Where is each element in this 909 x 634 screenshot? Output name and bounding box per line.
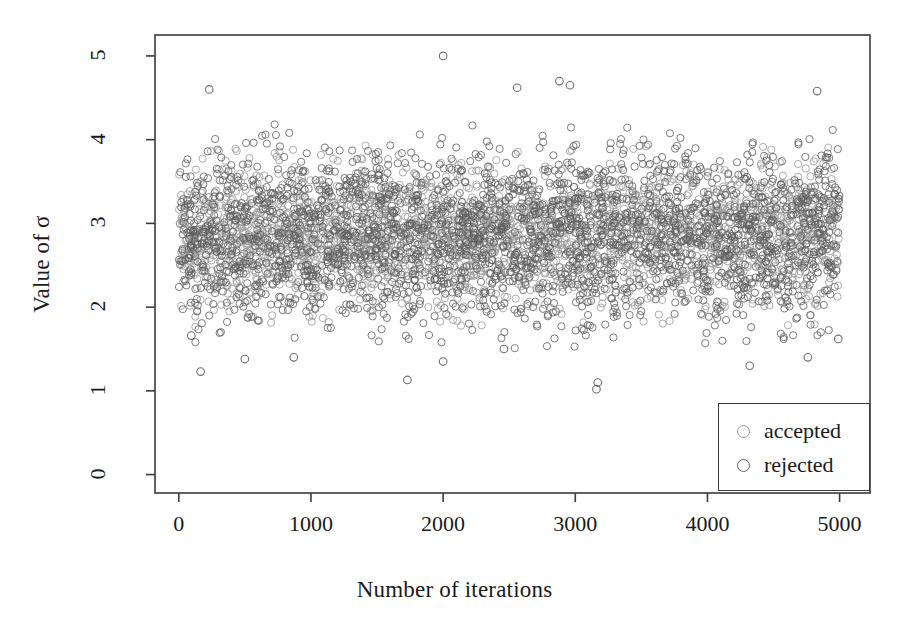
legend-item-rejected: rejected xyxy=(737,454,869,476)
legend-marker-accepted-icon xyxy=(737,425,750,438)
legend-marker-rejected-icon xyxy=(737,459,750,472)
x-tick-label: 0 xyxy=(119,511,239,537)
data-points-layer xyxy=(175,52,843,393)
legend: accepted rejected xyxy=(718,403,870,491)
x-tick-label: 2000 xyxy=(383,511,503,537)
x-tick-label: 4000 xyxy=(647,511,767,537)
scatter-plot-figure: Value of σ Number of iterations 01000200… xyxy=(0,0,909,634)
legend-item-accepted: accepted xyxy=(737,420,869,442)
x-tick-label: 5000 xyxy=(780,511,900,537)
y-tick-label: 3 xyxy=(85,192,111,252)
x-axis-title: Number of iterations xyxy=(0,577,909,603)
x-tick-label: 3000 xyxy=(515,511,635,537)
legend-label-accepted: accepted xyxy=(764,420,841,442)
plot-canvas xyxy=(0,0,909,634)
y-axis-title: Value of σ xyxy=(29,215,55,312)
y-tick-label: 5 xyxy=(85,25,111,85)
y-tick-label: 1 xyxy=(85,360,111,420)
y-tick-label: 0 xyxy=(85,444,111,504)
y-tick-label: 2 xyxy=(85,276,111,336)
legend-label-rejected: rejected xyxy=(764,454,834,476)
y-tick-label: 4 xyxy=(85,109,111,169)
x-tick-label: 1000 xyxy=(251,511,371,537)
